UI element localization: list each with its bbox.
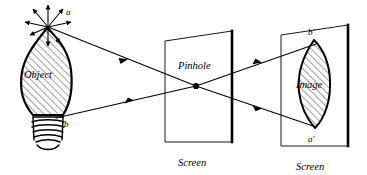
emission-arrows: [25, 5, 71, 46]
ray-pinhole-to-a-prime: [196, 86, 316, 127]
object-label: Object: [24, 69, 53, 80]
diagram-canvas: a b Object Pinhole Screen b' a' Image Sc…: [0, 0, 367, 175]
image-label: Image: [295, 79, 323, 90]
image-screen-caption: Screen: [296, 161, 324, 172]
image-screen: b' a' Image Screen: [281, 25, 348, 172]
bulb-screw-base: [32, 117, 64, 150]
pinhole-label: Pinhole: [177, 60, 211, 71]
object-point-a-label: a: [66, 7, 71, 17]
ray-a-prime-arrowhead: [253, 105, 262, 111]
image-point-a-prime-label: a': [308, 134, 316, 144]
pinhole-camera-diagram: a b Object Pinhole Screen b' a' Image Sc…: [0, 0, 367, 175]
image-point-b-prime-label: b': [308, 27, 316, 37]
object-point-b-label: b: [64, 119, 69, 129]
ray-bundle: [48, 27, 316, 127]
light-bulb-object: a b Object: [10, 5, 90, 150]
ray-b-arrowhead: [125, 98, 134, 104]
pinhole-screen-caption: Screen: [178, 157, 206, 168]
pinhole-screen: Pinhole Screen: [165, 31, 232, 168]
pinhole-dot: [193, 83, 199, 89]
